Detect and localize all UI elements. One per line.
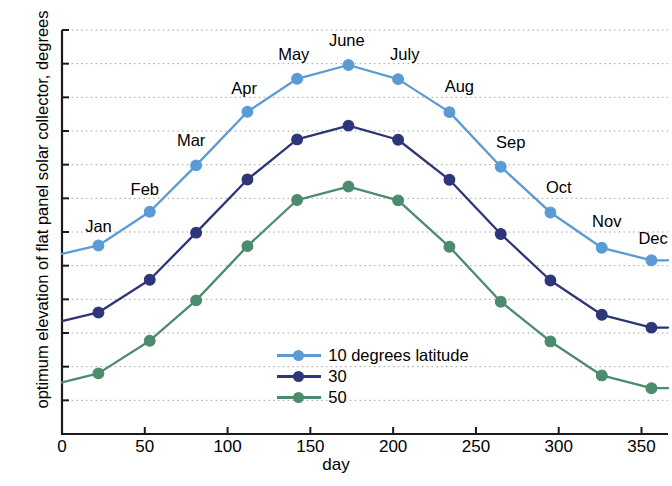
data-point — [343, 120, 354, 131]
data-point — [292, 195, 303, 206]
data-point — [596, 309, 607, 320]
x-tick-label: 300 — [545, 437, 573, 457]
data-point — [444, 174, 455, 185]
data-point — [343, 181, 354, 192]
data-point — [393, 195, 404, 206]
month-annotation: Mar — [177, 131, 206, 149]
data-point — [596, 370, 607, 381]
month-annotation: Feb — [131, 180, 159, 198]
month-annotation: July — [390, 45, 420, 63]
legend-swatch-icon — [277, 369, 321, 383]
data-point — [393, 74, 404, 85]
month-annotation: Sep — [496, 133, 525, 151]
legend-entry-0[interactable]: 10 degrees latitude — [277, 345, 468, 366]
chart-figure: optimum elevation of flat panel solar co… — [0, 0, 672, 486]
x-axis-title: day — [0, 455, 672, 475]
data-point — [646, 322, 657, 333]
data-point — [495, 229, 506, 240]
legend-swatch-icon — [277, 348, 321, 362]
legend-entry-1[interactable]: 30 — [277, 366, 468, 387]
x-tick-label: 200 — [379, 437, 407, 457]
series-line-0 — [62, 65, 668, 260]
data-point — [393, 134, 404, 145]
data-point — [191, 295, 202, 306]
data-point — [144, 206, 155, 217]
x-tick-label: 150 — [296, 437, 324, 457]
data-point — [646, 383, 657, 394]
x-tick-label: 100 — [213, 437, 241, 457]
data-point — [495, 296, 506, 307]
data-point — [93, 240, 104, 251]
data-point — [545, 207, 556, 218]
data-point — [444, 241, 455, 252]
month-annotation: June — [329, 31, 365, 49]
legend-label: 30 — [328, 367, 346, 386]
data-point — [646, 255, 657, 266]
data-point — [242, 106, 253, 117]
y-axis-tick-labels: 0102030405060708090100110120 — [0, 0, 56, 486]
x-tick-label: 50 — [135, 437, 154, 457]
data-point — [545, 275, 556, 286]
data-point — [596, 242, 607, 253]
data-point — [144, 335, 155, 346]
data-point — [93, 368, 104, 379]
legend-label: 50 — [328, 388, 346, 407]
legend-label: 10 degrees latitude — [328, 346, 468, 365]
data-point — [292, 134, 303, 145]
series-line-1 — [62, 126, 668, 328]
data-point — [292, 73, 303, 84]
x-tick-label: 350 — [627, 437, 655, 457]
x-tick-label: 0 — [57, 437, 66, 457]
x-tick-label: 250 — [462, 437, 490, 457]
data-point — [343, 60, 354, 71]
month-annotation: Aug — [445, 77, 474, 95]
month-annotation: Nov — [592, 212, 622, 230]
data-point — [191, 160, 202, 171]
legend-entry-2[interactable]: 50 — [277, 387, 468, 408]
data-point — [495, 161, 506, 172]
month-annotation: Jan — [85, 217, 112, 235]
month-annotation: May — [278, 45, 310, 63]
data-point — [242, 241, 253, 252]
legend-swatch-icon — [277, 390, 321, 404]
data-point — [144, 274, 155, 285]
month-annotation: Apr — [231, 79, 257, 97]
month-annotation: Oct — [546, 178, 572, 196]
month-annotation: Dec — [638, 229, 667, 247]
data-point — [444, 107, 455, 118]
data-point — [191, 227, 202, 238]
data-point — [545, 336, 556, 347]
data-point — [93, 307, 104, 318]
data-point — [242, 174, 253, 185]
chart-legend: 10 degrees latitude3050 — [277, 345, 468, 408]
